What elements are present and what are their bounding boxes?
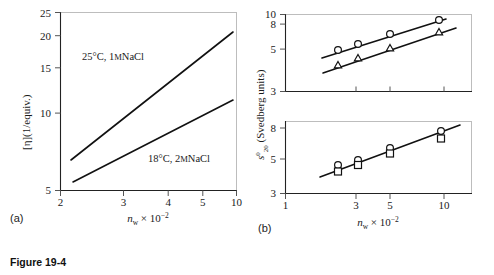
panel-a-annotation-18c: 18°C, 2MNaCl: [148, 153, 210, 164]
panel-b-top-ylabel-10: 10: [265, 8, 277, 20]
panel-a-xlabel-2: 2: [58, 196, 64, 208]
panel-b-top-frame: [286, 15, 472, 92]
panel-a-label: (a): [10, 212, 23, 224]
panel-b-label: (b): [258, 222, 271, 234]
panel-b: 3 5 8 10: [250, 0, 494, 235]
panel-a-ylabel-20: 20: [40, 30, 52, 42]
panel-b-top-marker-triangle: [386, 45, 393, 51]
panel-a: 5 10 15 20 25 2 3 4 5 10 25°C, 1MNaCl 18…: [0, 0, 250, 230]
panel-a-xlabel-4: 4: [165, 196, 171, 208]
panel-b-bottom-marker-circle: [335, 162, 342, 169]
panel-b-xlabel-3: 3: [353, 199, 359, 211]
panel-b-top-marker-circle: [355, 41, 362, 48]
panel-a-ylabel-25: 25: [40, 7, 52, 19]
panel-b-plot: 3 5 8 10: [250, 0, 494, 235]
panel-b-xlabel-5: 5: [387, 199, 393, 211]
panel-b-y-axis-title: s020 (Svedberg units): [254, 69, 270, 160]
panel-b-top-marker-triangle: [435, 29, 442, 35]
panel-a-x-axis-title: nw × 10−2: [127, 211, 169, 227]
panel-a-y-axis-title: [η](1/equiv.): [20, 94, 33, 150]
panel-b-bottom-marker-circle: [438, 128, 445, 135]
panel-b-x-axis-title: nw × 10−2: [357, 215, 399, 231]
panel-a-xlabel-3: 3: [121, 196, 127, 208]
panel-a-ylabel-5: 5: [46, 184, 52, 196]
panel-a-xlabel-5: 5: [200, 196, 206, 208]
figure-caption: Figure 19-4: [10, 256, 66, 268]
panel-a-series-18c-line: [73, 100, 233, 182]
panel-b-bottom-marker-square: [355, 162, 362, 169]
panel-a-ylabel-10: 10: [40, 107, 52, 119]
panel-a-xlabel-10: 10: [231, 196, 243, 208]
panel-b-bottom-marker-square: [438, 135, 445, 142]
panel-b-top-marker-triangle: [334, 62, 341, 68]
panel-b-top-marker-circle: [335, 47, 342, 54]
panel-a-ylabel-15: 15: [40, 62, 52, 74]
panel-b-bottom-ylabel-5: 5: [271, 153, 277, 165]
panel-b-bottom-ylabel-3: 3: [271, 187, 277, 199]
panel-b-top-ylabel-3: 3: [271, 85, 277, 97]
panel-b-bottom-ylabel-8: 8: [271, 122, 277, 134]
figure-19-4: 5 10 15 20 25 2 3 4 5 10 25°C, 1MNaCl 18…: [0, 0, 494, 275]
panel-a-plot: 5 10 15 20 25 2 3 4 5 10 25°C, 1MNaCl 18…: [0, 0, 250, 230]
panel-b-xlabel-10: 10: [439, 199, 451, 211]
panel-b-bottom-marker-square: [335, 168, 342, 175]
panel-b-bottom-marker-square: [387, 150, 394, 157]
panel-b-top-marker-circle: [387, 31, 394, 38]
panel-b-top-ylabel-5: 5: [271, 43, 277, 55]
panel-a-annotation-25c: 25°C, 1MNaCl: [82, 51, 144, 62]
panel-b-xlabel-1: 1: [283, 199, 289, 211]
panel-b-top-marker-circle: [436, 17, 443, 24]
panel-b-top-marker-triangle: [354, 55, 361, 61]
